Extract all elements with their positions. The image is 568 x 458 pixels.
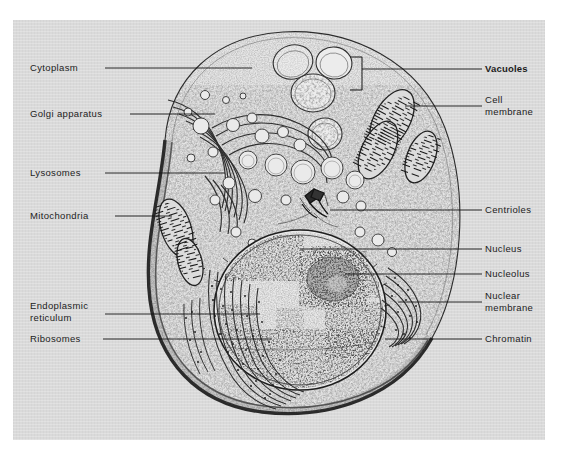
label-nucleolus: Nucleolus (485, 268, 530, 280)
lysosome (184, 108, 192, 116)
label-nucleolus-text: Nucleolus (485, 268, 530, 279)
label-nucleus: Nucleus (485, 243, 522, 255)
label-cell-membrane-line1: Cell (485, 94, 533, 106)
lysosome (239, 151, 257, 169)
lysosome (223, 177, 235, 189)
label-cytoplasm: Cytoplasm (30, 62, 78, 74)
lysosome (291, 160, 315, 184)
label-endoplasmic-reticulum-line1: Endoplasmic (30, 300, 88, 312)
nucleolus (307, 257, 359, 301)
lysosome (231, 227, 241, 237)
lysosome (356, 201, 366, 211)
label-nuclear-membrane-line2: membrane (485, 302, 533, 314)
lysosome (247, 113, 257, 123)
label-cell-membrane-line2: membrane (485, 106, 533, 118)
lysosome (255, 129, 269, 143)
lysosome (210, 195, 220, 205)
cell-diagram-artwork (0, 0, 568, 458)
lysosome (208, 147, 218, 157)
label-nuclear-membrane-line1: Nuclear (485, 290, 533, 302)
label-chromatin: Chromatin (485, 333, 532, 345)
label-cell-membrane: Cell membrane (485, 94, 533, 117)
label-nuclear-membrane: Nuclear membrane (485, 290, 533, 313)
lysosome (278, 127, 289, 138)
label-endoplasmic-reticulum-line2: reticulum (30, 312, 88, 324)
label-vacuoles: Vacuoles (485, 63, 528, 75)
label-nucleus-text: Nucleus (485, 243, 522, 254)
label-chromatin-text: Chromatin (485, 333, 532, 344)
label-centrioles-text: Centrioles (485, 204, 531, 215)
lysosome (240, 93, 246, 99)
lysosome (227, 119, 240, 132)
lysosome (187, 154, 195, 162)
lysosome (281, 195, 291, 205)
label-endoplasmic-reticulum: Endoplasmic reticulum (30, 300, 88, 323)
label-golgi-apparatus: Golgi apparatus (30, 108, 102, 120)
label-mitochondria-text: Mitochondria (30, 210, 89, 221)
lysosome (355, 227, 365, 237)
label-mitochondria: Mitochondria (30, 210, 89, 222)
label-ribosomes-text: Ribosomes (30, 333, 81, 344)
label-golgi-apparatus-text: Golgi apparatus (30, 108, 102, 119)
label-lysosomes: Lysosomes (30, 167, 81, 179)
lysosome (372, 234, 384, 246)
lysosome (193, 118, 209, 134)
figure-page: Cytoplasm Golgi apparatus Lysosomes Mito… (0, 0, 568, 458)
label-cytoplasm-text: Cytoplasm (30, 62, 78, 73)
label-vacuoles-text: Vacuoles (485, 63, 528, 74)
label-lysosomes-text: Lysosomes (30, 167, 81, 178)
lysosome (249, 190, 262, 203)
lysosome (346, 171, 364, 189)
lysosome (337, 191, 349, 203)
lysosome (223, 97, 230, 104)
lysosome (201, 91, 210, 100)
label-ribosomes: Ribosomes (30, 333, 81, 345)
lysosome (294, 139, 306, 151)
label-centrioles: Centrioles (485, 204, 531, 216)
